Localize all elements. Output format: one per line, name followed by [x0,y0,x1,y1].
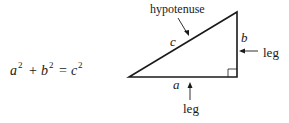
eq-b: b [41,63,48,78]
side-c-label: c [170,34,176,49]
eq-a: a [10,63,17,78]
eq-c: c [71,63,78,78]
hypotenuse-arrow-icon [184,30,189,36]
eq-equals: = [59,63,67,78]
leg-bottom-label: leg [183,101,199,116]
eq-c-exp: 2 [78,60,83,70]
right-angle-marker [228,69,237,77]
equation: a 2 + b 2 = c 2 [10,60,83,78]
eq-plus: + [29,63,37,78]
hypotenuse-label: hypotenuse [150,2,205,16]
eq-b-exp: 2 [49,60,54,70]
side-a-label: a [173,77,180,92]
leg-right-arrow-icon [239,49,245,54]
pythagorean-diagram: a 2 + b 2 = c 2 c b a hypotenuse leg leg [0,0,289,123]
leg-right-label: leg [263,45,279,60]
right-triangle [129,12,237,77]
eq-a-exp: 2 [18,60,23,70]
leg-bottom-arrow-icon [188,82,193,88]
side-b-label: b [241,30,248,45]
